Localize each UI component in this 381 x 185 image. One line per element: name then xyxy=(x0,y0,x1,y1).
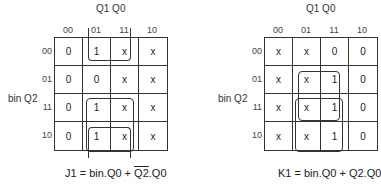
group-loop-top-wrap xyxy=(88,28,131,61)
group-loop-bottom-wrap xyxy=(88,127,131,158)
cell: x xyxy=(139,94,167,122)
cell: 0 xyxy=(55,66,83,94)
group-loop-rows11-10 xyxy=(295,98,343,152)
cell: x xyxy=(265,38,293,66)
row-label: 11 xyxy=(246,102,262,112)
cell: x xyxy=(139,122,167,150)
col-label: 00 xyxy=(54,25,82,35)
row-title: bin Q2 xyxy=(8,93,37,104)
equation-complemented-term: Q2 xyxy=(134,167,149,179)
row-label: 01 xyxy=(36,74,52,84)
cell: 0 xyxy=(349,66,377,94)
cell: 0 xyxy=(55,94,83,122)
col-title: Q1 Q0 xyxy=(306,3,335,14)
equation-suffix: .Q0 xyxy=(149,167,167,179)
equation-j1: J1 = bin.Q0 + Q2.Q0 xyxy=(65,167,167,179)
row-label: 00 xyxy=(246,46,262,56)
cell: x xyxy=(293,38,321,66)
equation-prefix: J1 = bin.Q0 + xyxy=(65,167,134,179)
cell: 0 xyxy=(349,94,377,122)
row-label: 00 xyxy=(36,46,52,56)
cell: x xyxy=(265,66,293,94)
kmap-k1: Q1 Q0 bin Q2 00 01 11 10 00 01 11 10 x x… xyxy=(188,0,376,185)
col-label: 10 xyxy=(138,25,166,35)
row-label: 01 xyxy=(246,74,262,84)
row-label: 10 xyxy=(36,130,52,140)
cell: 0 xyxy=(349,38,377,66)
cell: 0 xyxy=(83,66,111,94)
cell: x xyxy=(139,38,167,66)
cell: 0 xyxy=(55,38,83,66)
equation-k1: K1 = bin.Q0 + Q2.Q0 xyxy=(278,167,381,179)
col-label: 00 xyxy=(264,25,292,35)
row-label: 11 xyxy=(36,102,52,112)
cell: 0 xyxy=(55,122,83,150)
cell: 0 xyxy=(321,38,349,66)
kmap-j1: Q1 Q0 bin Q2 00 01 11 10 00 01 11 10 0 1… xyxy=(0,0,188,185)
cell: x xyxy=(265,94,293,122)
col-label: 11 xyxy=(320,25,348,35)
cell: x xyxy=(265,122,293,150)
col-label: 10 xyxy=(348,25,376,35)
col-title: Q1 Q0 xyxy=(96,3,125,14)
col-label: 01 xyxy=(292,25,320,35)
cell: x xyxy=(111,66,139,94)
cell: x xyxy=(139,66,167,94)
cell: 0 xyxy=(349,122,377,150)
row-label: 10 xyxy=(246,130,262,140)
row-title: bin Q2 xyxy=(218,93,247,104)
